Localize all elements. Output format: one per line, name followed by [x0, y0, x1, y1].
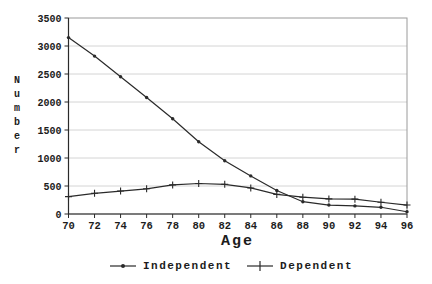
y-tick-label: 500 — [43, 182, 61, 193]
y-tick-label: 1500 — [37, 126, 61, 137]
data-point-dot — [119, 75, 122, 78]
axis-lines — [69, 18, 408, 214]
line-chart-page: N u m b e r 3500300025002000150010005000… — [0, 0, 432, 284]
independent-series-marker-icon — [109, 261, 137, 271]
data-point-dot — [145, 96, 148, 99]
y-tick-label: 2000 — [37, 98, 61, 109]
data-point-plus — [404, 202, 411, 209]
data-point-plus — [221, 181, 228, 188]
data-point-dot — [353, 204, 356, 207]
y-tick-label: 2500 — [37, 70, 61, 81]
x-tick-label: 74 — [114, 220, 127, 232]
x-axis-ticks: 7072747678808284868890929496 — [62, 214, 413, 232]
data-point-dot — [197, 140, 200, 143]
plot-frame — [69, 18, 408, 214]
legend-label-dependent: Dependent — [280, 260, 353, 272]
x-tick-label: 86 — [271, 220, 284, 232]
gridlines — [69, 46, 408, 186]
x-tick-label: 76 — [140, 220, 153, 232]
y-tick-label: 3500 — [37, 14, 61, 25]
data-point-plus — [299, 194, 306, 201]
x-tick-label: 88 — [297, 220, 310, 232]
data-point-plus — [377, 199, 384, 206]
legend-label-independent: Independent — [143, 260, 232, 272]
series-independent — [67, 36, 409, 214]
x-tick-label: 92 — [349, 220, 362, 232]
data-point-dot — [93, 54, 96, 57]
legend: Independent Dependent — [30, 260, 432, 272]
x-tick-label: 78 — [166, 220, 179, 232]
data-point-plus — [351, 196, 358, 203]
data-point-dot — [405, 210, 408, 213]
y-tick-label: 0 — [55, 210, 61, 221]
dependent-series-marker-icon — [246, 260, 274, 272]
x-tick-label: 84 — [244, 220, 257, 232]
data-point-dot — [379, 206, 382, 209]
data-point-dot — [223, 159, 226, 162]
x-tick-label: 82 — [218, 220, 231, 232]
x-tick-label: 70 — [62, 220, 75, 232]
y-tick-label: 3000 — [37, 42, 61, 53]
x-tick-label: 72 — [88, 220, 101, 232]
x-tick-label: 96 — [401, 220, 414, 232]
data-point-dot — [171, 117, 174, 120]
x-tick-label: 80 — [192, 220, 205, 232]
legend-item-independent: Independent — [109, 260, 232, 272]
series-dependent — [65, 180, 411, 209]
x-tick-label: 90 — [323, 220, 336, 232]
data-point-dot — [67, 36, 70, 39]
data-point-plus — [325, 195, 332, 202]
data-point-dot — [327, 203, 330, 206]
x-tick-label: 94 — [375, 220, 388, 232]
legend-item-dependent: Dependent — [246, 260, 353, 272]
data-point-plus — [91, 190, 98, 197]
data-point-plus — [169, 181, 176, 188]
y-tick-label: 1000 — [37, 154, 61, 165]
data-point-plus — [117, 188, 124, 195]
y-axis-ticks: 3500300025002000150010005000 — [37, 14, 68, 221]
data-point-plus — [65, 193, 72, 200]
data-point-dot — [249, 174, 252, 177]
x-axis-label: Age — [68, 233, 407, 250]
